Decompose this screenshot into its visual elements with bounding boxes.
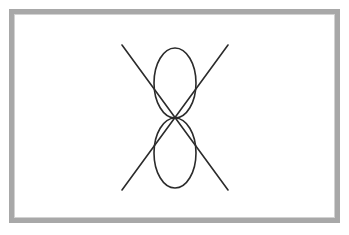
image-canvas bbox=[0, 0, 349, 235]
frame-inner-highlight bbox=[14, 14, 335, 218]
picture-frame-border bbox=[9, 9, 340, 223]
